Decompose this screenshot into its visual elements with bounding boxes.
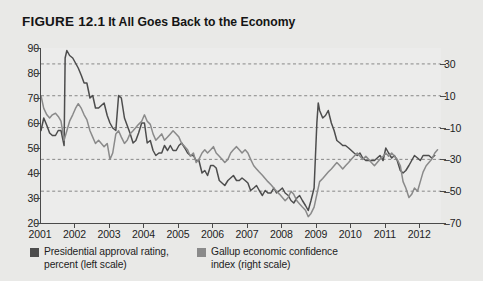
x-axis-tick-label: 2011 [374,228,396,240]
x-axis-tick [281,223,282,228]
y-axis-left-tick [34,198,40,199]
x-axis-tick [419,223,420,228]
x-axis-tick-label: 2002 [63,228,86,240]
x-axis-tick-label: 2006 [201,228,224,240]
plot-area [40,48,441,224]
x-axis-tick-label: 2005 [166,228,189,240]
y-axis-left-tick [34,123,40,124]
series-lines [41,51,438,217]
y-axis-right-tick-label: –50 [444,185,483,197]
chart-legend: Presidential approval rating, percent (l… [0,244,483,284]
y-axis-right-tick-label: –10 [444,122,483,134]
figure-number: FIGURE 12.1 [22,14,105,29]
y-axis-right-tick [440,128,446,129]
legend-item-gallup-confidence: Gallup economic confidence index (right … [197,246,361,271]
legend-item-label: Gallup economic confidence index (right … [211,246,361,271]
x-axis-tick-label: 2001 [29,228,52,240]
x-axis-tick-label: 2010 [339,228,362,240]
y-axis-left-tick [34,73,40,74]
figure-title-text: It All Goes Back to the Economy [108,15,295,29]
y-axis-right-tick [440,191,446,192]
x-axis-tick [385,223,386,228]
y-axis-right-tick-label: –70 [444,217,483,229]
y-axis-right-tick-label: –30 [444,153,483,165]
x-axis-tick [109,223,110,228]
x-axis-tick-label: 2009 [304,228,327,240]
plot-wrapper: 2030405060708090 –70–50–30–101030 200120… [0,38,483,238]
y-axis-left-tick [34,98,40,99]
legend-swatch-icon [197,248,206,257]
x-axis-tick [143,223,144,228]
x-axis-tick [247,223,248,228]
x-axis-tick-label: 2007 [235,228,258,240]
y-axis-right-tick [440,96,446,97]
x-axis-tick [74,223,75,228]
x-axis-tick-label: 2003 [97,228,120,240]
y-axis-right-tick [440,64,446,65]
x-axis-tick-label: 2004 [132,228,155,240]
y-axis-right-tick-label: 30 [444,58,483,70]
gridlines [41,64,441,191]
x-axis-tick [316,223,317,228]
series-line [41,51,435,211]
y-axis-left-tick [34,48,40,49]
legend-item-presidential-approval: Presidential approval rating, percent (l… [30,246,194,271]
x-axis-tick-label: 2008 [270,228,293,240]
y-axis-right-tick-label: 10 [444,90,483,102]
y-axis-left-tick [34,148,40,149]
figure-container: FIGURE 12.1It All Goes Back to the Econo… [0,0,483,290]
x-axis-tick [350,223,351,228]
y-axis-left-tick [34,173,40,174]
x-axis-tick-label: 2012 [408,228,431,240]
series-line [41,96,438,217]
legend-swatch-icon [30,248,39,257]
figure-title: FIGURE 12.1It All Goes Back to the Econo… [22,12,295,30]
chart-svg [41,48,441,223]
x-axis-tick [212,223,213,228]
legend-item-label: Presidential approval rating, percent (l… [44,246,194,271]
y-axis-right-tick [440,223,446,224]
y-axis-right-tick [440,159,446,160]
y-axis-left-tick [34,223,40,224]
x-axis-tick [178,223,179,228]
